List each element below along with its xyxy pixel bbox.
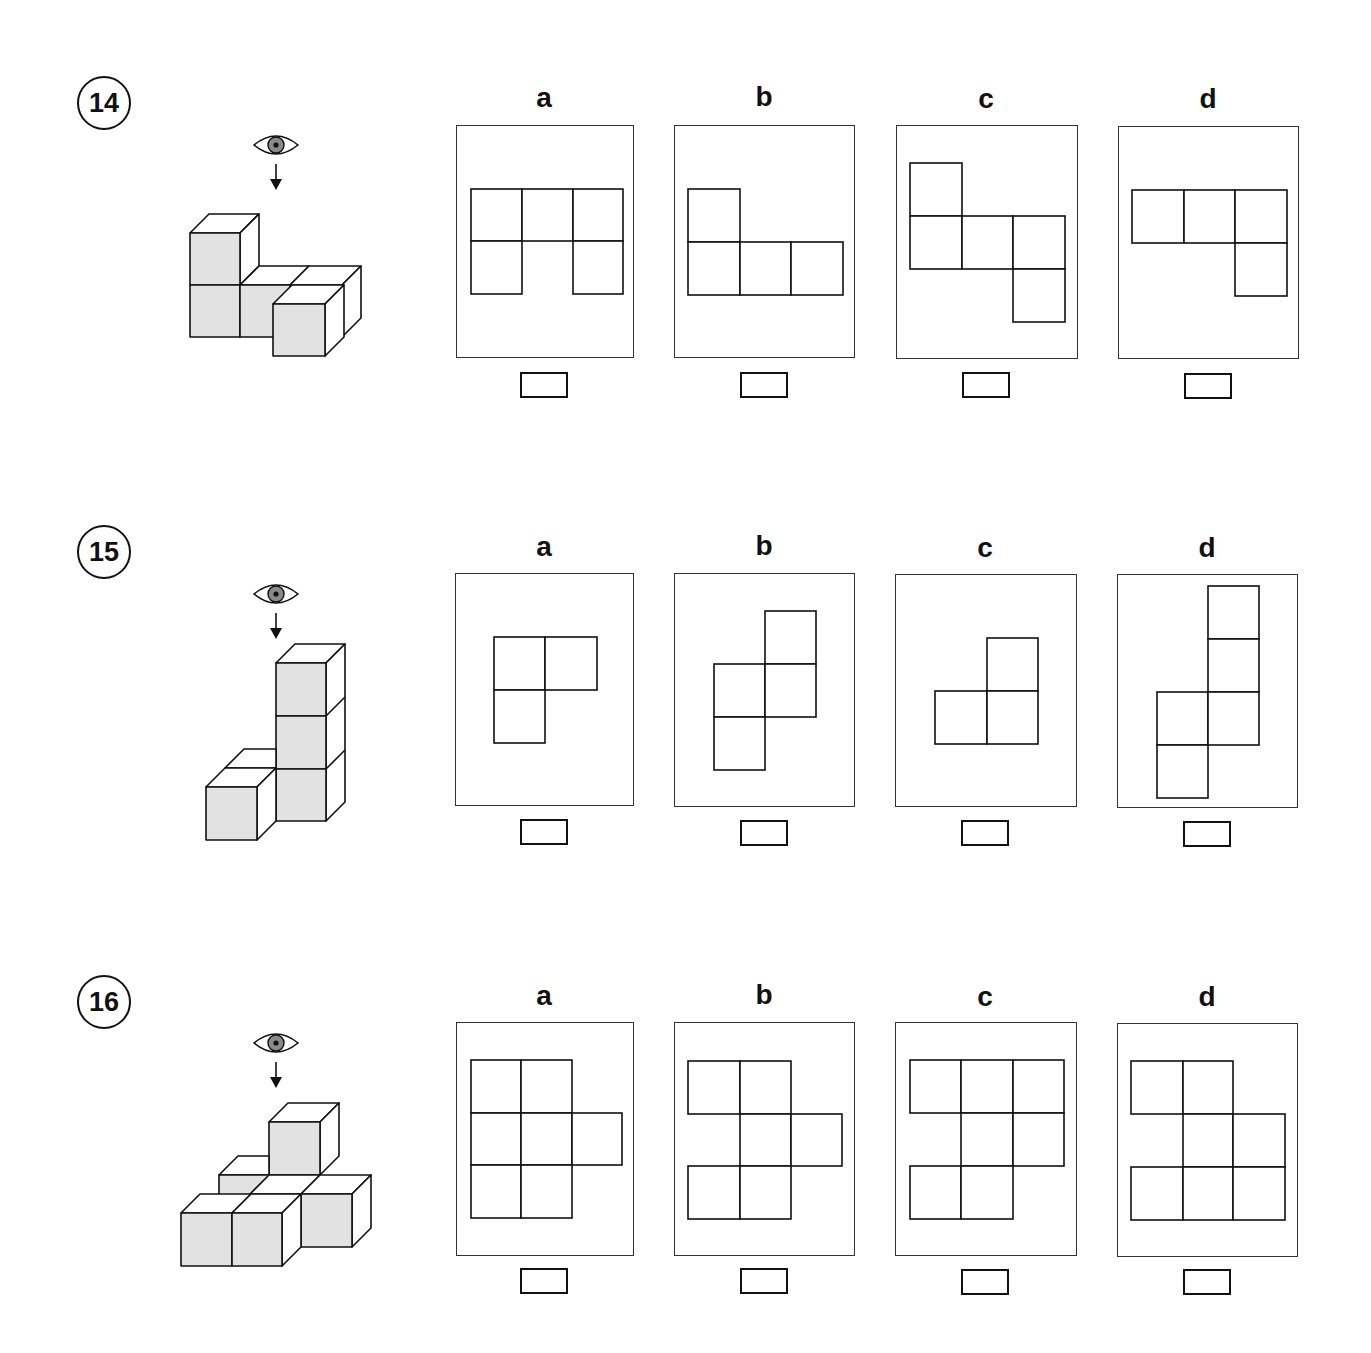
cube-figure [160, 1026, 390, 1276]
answer-checkbox-a[interactable] [520, 372, 568, 398]
question-16: 16 [0, 899, 1371, 1348]
option-b-plan-view [674, 125, 855, 358]
option-label-b: b [734, 82, 794, 112]
answer-checkbox-d[interactable] [1183, 1269, 1231, 1295]
option-label-a: a [514, 532, 574, 562]
option-label-d: d [1177, 982, 1237, 1012]
option-d-plan-view [1117, 574, 1298, 808]
eye-icon [254, 136, 298, 154]
eye-icon [254, 1034, 298, 1052]
arrow-down-icon [270, 613, 282, 639]
option-label-d: d [1178, 84, 1238, 114]
answer-checkbox-c[interactable] [962, 372, 1010, 398]
cube-figure [160, 128, 380, 368]
answer-checkbox-c[interactable] [961, 1269, 1009, 1295]
option-a-plan-view [456, 125, 634, 358]
option-c-plan-view [895, 574, 1077, 807]
question-15: 15 a [0, 449, 1371, 898]
answer-checkbox-a[interactable] [520, 819, 568, 845]
option-d-plan-view [1117, 1023, 1298, 1257]
question-number-badge: 14 [77, 76, 131, 130]
option-b-plan-view [674, 573, 855, 807]
option-label-c: c [956, 84, 1016, 114]
option-a-plan-view [456, 1022, 634, 1256]
eye-icon [254, 585, 298, 603]
option-label-a: a [514, 981, 574, 1011]
option-d-plan-view [1118, 126, 1299, 359]
question-number-badge: 15 [77, 525, 131, 579]
arrow-down-icon [270, 164, 282, 190]
option-a-plan-view [455, 573, 634, 806]
question-14: 14 a [0, 0, 1371, 449]
option-label-c: c [955, 982, 1015, 1012]
option-label-d: d [1177, 533, 1237, 563]
answer-checkbox-a[interactable] [520, 1268, 568, 1294]
option-label-b: b [734, 531, 794, 561]
option-label-b: b [734, 980, 794, 1010]
option-label-c: c [955, 533, 1015, 563]
option-c-plan-view [895, 1022, 1077, 1256]
answer-checkbox-d[interactable] [1183, 821, 1231, 847]
option-c-plan-view [896, 125, 1078, 359]
answer-checkbox-c[interactable] [961, 820, 1009, 846]
answer-checkbox-b[interactable] [740, 820, 788, 846]
option-b-plan-view [674, 1022, 855, 1256]
arrow-down-icon [270, 1062, 282, 1088]
answer-checkbox-b[interactable] [740, 372, 788, 398]
cube-figure [160, 577, 380, 847]
question-number-badge: 16 [77, 975, 131, 1029]
option-label-a: a [514, 83, 574, 113]
answer-checkbox-b[interactable] [740, 1268, 788, 1294]
answer-checkbox-d[interactable] [1184, 373, 1232, 399]
